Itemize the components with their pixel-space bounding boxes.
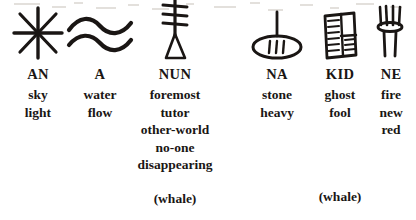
- gloss-item: heavy: [240, 104, 314, 122]
- gloss-item: fire: [366, 86, 416, 104]
- cuneiform-sign-na-stone-oval-on-stem: [248, 10, 306, 60]
- sign-list-table: AN sky light A water flow: [0, 0, 416, 220]
- sign-entry-ne: NE fire new red: [366, 0, 416, 139]
- sign-entry-nun: NUN foremost tutor other-world no-one di…: [112, 0, 238, 207]
- sign-entry-kid: KID ghost fool: [306, 0, 374, 121]
- sign-headword: NUN: [112, 65, 238, 83]
- sign-headword: NE: [366, 65, 416, 83]
- gloss-item: no-one: [112, 139, 238, 157]
- sign-glyph-cell: [306, 0, 374, 60]
- gloss-item: foremost: [112, 86, 238, 104]
- gloss-item: fool: [306, 104, 374, 122]
- cuneiform-sign-nun-barred-post: [155, 0, 195, 60]
- gloss-list: foremost tutor other-world no-one disapp…: [112, 86, 238, 207]
- cuneiform-sign-kid-hatched-panel: [320, 10, 360, 60]
- gloss-item: stone: [240, 86, 314, 104]
- gloss-item: new: [366, 104, 416, 122]
- gloss-list: stone heavy: [240, 86, 314, 121]
- gloss-trailing-note: (whale): [112, 190, 238, 208]
- gloss-item: tutor: [112, 104, 238, 122]
- gloss-list: fire new red: [366, 86, 416, 139]
- gloss-item: disappearing: [112, 156, 238, 174]
- gloss-item: ghost: [306, 86, 374, 104]
- sign-glyph-cell: [240, 0, 314, 60]
- gloss-trailing-note: (whale): [306, 188, 374, 206]
- sign-glyph-cell: [366, 0, 416, 60]
- cuneiform-sign-an-eight-pointed-star: [10, 6, 66, 60]
- sign-headword: NA: [240, 65, 314, 83]
- gloss-item: other-world: [112, 121, 238, 139]
- sign-glyph-cell: [112, 0, 238, 60]
- cuneiform-sign-ne-flame-brazier: [371, 4, 411, 60]
- sign-headword: KID: [306, 65, 374, 83]
- gloss-item: red: [366, 121, 416, 139]
- sign-entry-na: NA stone heavy: [240, 0, 314, 121]
- gloss-list: ghost fool: [306, 86, 374, 121]
